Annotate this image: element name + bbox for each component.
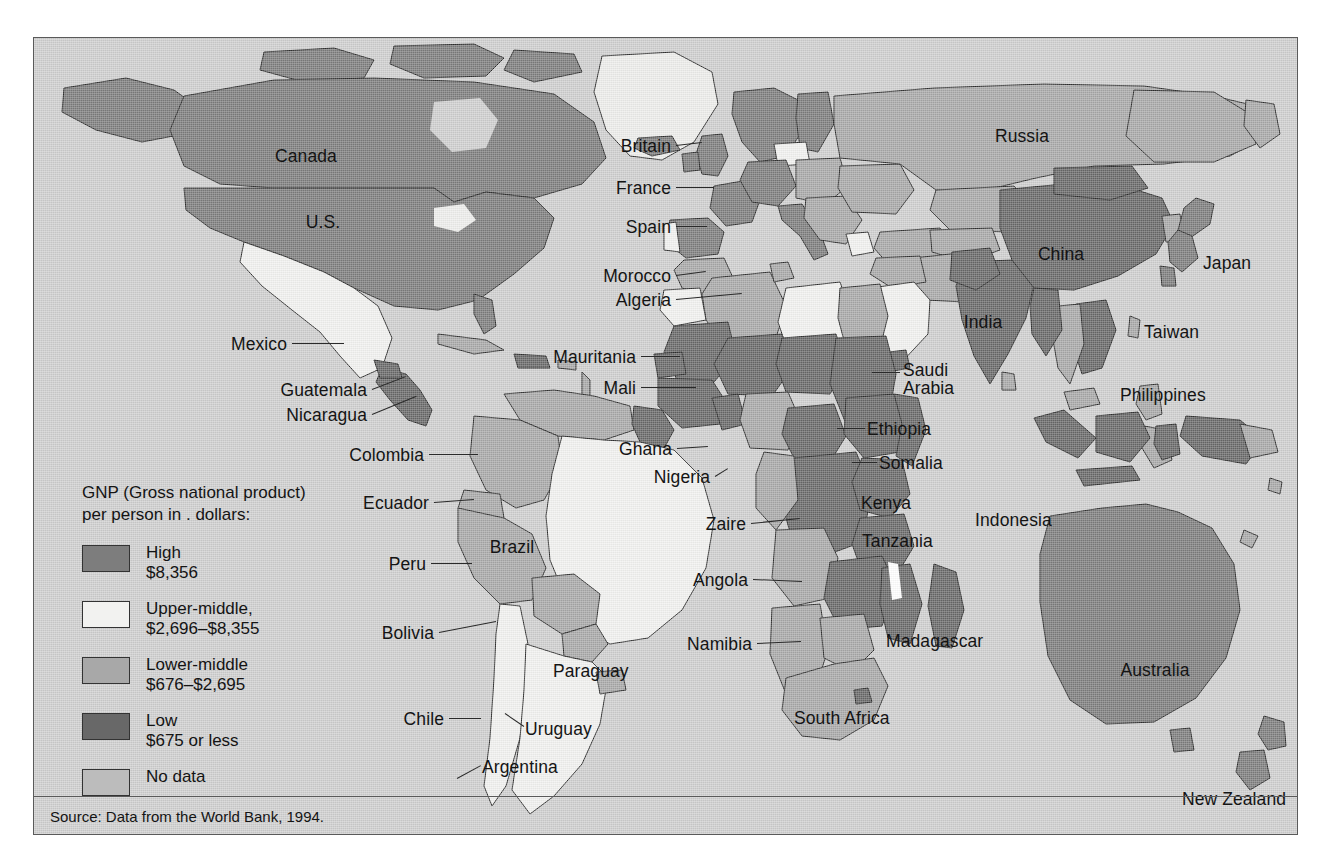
map-label-mexico: Mexico bbox=[231, 335, 287, 353]
map-legend: GNP (Gross national product) per person … bbox=[82, 482, 332, 812]
region-china bbox=[1000, 184, 1174, 290]
legend-label-upper-middle: Upper-middle, $2,696–$8,355 bbox=[146, 599, 259, 639]
map-label-peru: Peru bbox=[389, 555, 426, 573]
legend-item-high: High $8,356 bbox=[82, 543, 332, 583]
region-tunisia bbox=[770, 262, 794, 282]
map-label-guatemala: Guatemala bbox=[280, 381, 367, 399]
map-label-paraguay: Paraguay bbox=[553, 662, 629, 680]
map-label-bolivia: Bolivia bbox=[382, 624, 434, 642]
leader-line-mali bbox=[641, 387, 696, 388]
map-label-argentina: Argentina bbox=[482, 758, 558, 776]
region-sumatra bbox=[1034, 410, 1096, 458]
region-taiwan bbox=[1128, 316, 1140, 338]
legend-swatch-high bbox=[82, 545, 130, 572]
source-note: Source: Data from the World Bank, 1994. bbox=[50, 808, 324, 825]
map-label-nicaragua: Nicaragua bbox=[286, 406, 367, 424]
map-label-chile: Chile bbox=[404, 710, 444, 728]
region-greece bbox=[846, 232, 874, 256]
map-label-ethiopia: Ethiopia bbox=[867, 420, 931, 438]
leader-line-ethiopia bbox=[837, 428, 865, 429]
map-label-madagascar: Madagascar bbox=[886, 632, 983, 650]
map-label-australia: Australia bbox=[1121, 661, 1190, 679]
region-arctic-islands-2 bbox=[390, 44, 504, 78]
region-cuba bbox=[438, 334, 504, 354]
map-label-tanzania: Tanzania bbox=[862, 532, 933, 550]
map-label-morocco: Morocco bbox=[603, 267, 671, 285]
legend-item-no-data: No data bbox=[82, 767, 332, 796]
legend-swatch-upper-middle bbox=[82, 601, 130, 628]
map-label-namibia: Namibia bbox=[687, 635, 752, 653]
region-united-states bbox=[184, 188, 554, 310]
leader-line-colombia bbox=[429, 454, 478, 455]
region-canada bbox=[170, 78, 606, 202]
map-label-spain: Spain bbox=[626, 218, 671, 236]
map-label-kenya: Kenya bbox=[861, 494, 911, 512]
leader-line-spain bbox=[676, 226, 707, 227]
map-label-algeria: Algeria bbox=[616, 291, 671, 309]
region-pacific-is-2 bbox=[1240, 530, 1258, 548]
map-label-zaire: Zaire bbox=[706, 515, 746, 533]
map-label-colombia: Colombia bbox=[349, 446, 424, 464]
legend-label-lower-middle: Lower-middle $676–$2,695 bbox=[146, 655, 248, 695]
map-label-canada: Canada bbox=[275, 147, 337, 165]
map-label-saudi-arabia: Saudi Arabia bbox=[903, 361, 954, 397]
map-label-japan: Japan bbox=[1203, 254, 1251, 272]
legend-swatch-low bbox=[82, 713, 130, 740]
region-japan-kyushu bbox=[1160, 266, 1176, 286]
legend-item-lower-middle: Lower-middle $676–$2,695 bbox=[82, 655, 332, 695]
region-malaysia bbox=[1064, 388, 1100, 410]
leader-line-peru bbox=[431, 563, 472, 564]
legend-label-high: High $8,356 bbox=[146, 543, 198, 583]
region-japan-honshu bbox=[1168, 230, 1198, 272]
map-label-china: China bbox=[1038, 245, 1084, 263]
leader-line-mexico bbox=[292, 343, 344, 344]
region-guatemala bbox=[374, 360, 402, 378]
region-nz-north bbox=[1258, 716, 1286, 750]
map-label-britain: Britain bbox=[621, 137, 671, 155]
region-cameroon-car bbox=[782, 404, 846, 462]
map-label-uruguay: Uruguay bbox=[525, 720, 592, 738]
region-britain bbox=[696, 134, 728, 176]
region-pacific-is-1 bbox=[1268, 478, 1282, 494]
leader-line-somalia bbox=[852, 462, 877, 463]
region-borneo bbox=[1096, 412, 1150, 462]
region-australia bbox=[1040, 504, 1240, 724]
leader-line-mauritania bbox=[641, 356, 680, 357]
legend-label-no-data: No data bbox=[146, 767, 206, 787]
world-map-canvas: CanadaU.S.MexicoGuatemalaNicaraguaColomb… bbox=[33, 37, 1298, 835]
region-java bbox=[1076, 466, 1140, 486]
region-hispaniola bbox=[514, 354, 550, 368]
legend-label-low: Low $675 or less bbox=[146, 711, 239, 751]
map-label-mali: Mali bbox=[604, 379, 637, 397]
region-russia-east bbox=[1126, 90, 1256, 162]
legend-swatch-no-data bbox=[82, 769, 130, 796]
region-us-florida bbox=[474, 294, 496, 334]
region-tasmania bbox=[1170, 728, 1194, 752]
map-label-mauritania: Mauritania bbox=[553, 348, 636, 366]
map-label-russia: Russia bbox=[995, 127, 1049, 145]
legend-item-low: Low $675 or less bbox=[82, 711, 332, 751]
legend-title: GNP (Gross national product) per person … bbox=[82, 482, 332, 526]
region-iraq-syria bbox=[870, 256, 926, 288]
source-bar: Source: Data from the World Bank, 1994. bbox=[33, 796, 1298, 835]
legend-swatch-lower-middle bbox=[82, 657, 130, 684]
map-figure: CanadaU.S.MexicoGuatemalaNicaraguaColomb… bbox=[0, 0, 1330, 860]
leader-line-chile bbox=[449, 718, 481, 719]
map-label-nigeria: Nigeria bbox=[654, 468, 710, 486]
region-arctic-islands-1 bbox=[260, 48, 374, 82]
region-ukraine bbox=[838, 164, 914, 214]
map-label-taiwan: Taiwan bbox=[1144, 323, 1199, 341]
leader-line-saudi-arabia bbox=[872, 372, 900, 373]
map-label-us: U.S. bbox=[306, 213, 340, 231]
map-label-ghana: Ghana bbox=[619, 440, 672, 458]
legend-rows: High $8,356Upper-middle, $2,696–$8,355Lo… bbox=[82, 543, 332, 796]
region-nz-south bbox=[1236, 750, 1270, 790]
region-ireland bbox=[682, 152, 700, 172]
map-label-ecuador: Ecuador bbox=[363, 494, 429, 512]
map-label-philippines: Philippines bbox=[1120, 386, 1206, 404]
legend-item-upper-middle: Upper-middle, $2,696–$8,355 bbox=[82, 599, 332, 639]
map-label-india: India bbox=[964, 313, 1002, 331]
map-label-france: France bbox=[616, 179, 671, 197]
map-label-brazil: Brazil bbox=[490, 538, 534, 556]
map-label-angola: Angola bbox=[693, 571, 748, 589]
